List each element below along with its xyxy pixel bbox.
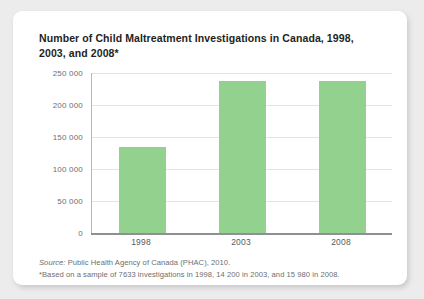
x-axis-line	[91, 233, 392, 235]
x-axis-tick-labels: 199820032008	[91, 237, 391, 247]
y-axis-tick-label: 50 000	[57, 197, 83, 206]
x-axis-tick-label: 2008	[292, 237, 391, 247]
y-axis-tick-label: 0	[78, 229, 83, 238]
bar-slot	[293, 73, 392, 233]
chart-card: Number of Child Maltreatment Investigati…	[13, 11, 407, 285]
bar-slot	[93, 73, 192, 233]
bar-2003	[219, 81, 266, 233]
chart-axes	[91, 73, 392, 233]
y-axis-tick-label: 150 000	[53, 133, 83, 142]
footnote: *Based on a sample of 7633 investigation…	[39, 269, 389, 281]
page-title: Number of Child Maltreatment Investigati…	[39, 31, 369, 60]
bar-2008	[319, 81, 366, 233]
y-axis-tick-label: 100 000	[53, 165, 83, 174]
y-axis-tick-labels: 050 000100 000150 000200 000250 000	[39, 73, 87, 233]
bar-slot	[193, 73, 292, 233]
x-axis-tick-label: 2003	[192, 237, 291, 247]
source-text: Public Health Agency of Canada (PHAC), 2…	[66, 258, 231, 267]
bar-1998	[119, 147, 166, 233]
page-background: Number of Child Maltreatment Investigati…	[0, 0, 424, 299]
x-axis-tick-label: 1998	[92, 237, 191, 247]
source-note: Source: Public Health Agency of Canada (…	[39, 257, 389, 269]
y-axis-tick-label: 250 000	[53, 69, 83, 78]
chart-plot-area: 050 000100 000150 000200 000250 000 1998…	[39, 73, 394, 259]
bar-series	[92, 73, 392, 233]
y-axis-tick-label: 200 000	[53, 101, 83, 110]
chart-notes: Source: Public Health Agency of Canada (…	[39, 257, 389, 281]
source-label: Source:	[39, 258, 66, 267]
